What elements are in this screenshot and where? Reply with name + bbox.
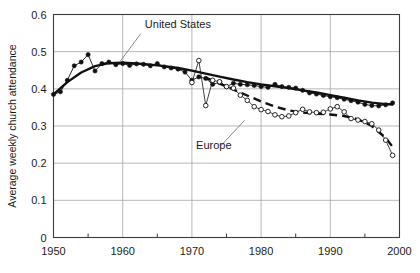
- data-point-europe: [245, 98, 250, 103]
- data-point-europe: [259, 107, 264, 112]
- data-point-united-states: [280, 85, 284, 89]
- data-point-united-states: [259, 85, 263, 89]
- data-point-europe: [370, 121, 375, 126]
- data-point-united-states: [307, 91, 311, 95]
- data-point-europe: [238, 93, 243, 98]
- x-tick-label: 1990: [318, 245, 342, 257]
- x-tick-label: 1980: [249, 245, 273, 257]
- x-tick-label: 1950: [41, 245, 65, 257]
- y-tick-label: 0.3: [31, 120, 46, 132]
- data-point-europe: [321, 110, 326, 115]
- data-point-united-states: [134, 62, 138, 66]
- data-point-united-states: [287, 85, 291, 89]
- y-tick-label: 0.1: [31, 194, 46, 206]
- data-point-united-states: [100, 61, 104, 65]
- data-point-united-states: [321, 93, 325, 97]
- data-point-united-states: [72, 64, 76, 68]
- y-tick-label: 0: [40, 232, 46, 244]
- data-point-united-states: [204, 76, 208, 80]
- data-point-united-states: [314, 92, 318, 96]
- data-point-europe: [314, 110, 319, 115]
- data-point-europe: [210, 78, 215, 83]
- data-point-united-states: [79, 60, 83, 64]
- data-point-europe: [293, 110, 298, 115]
- church-attendance-line-chart: 00.10.20.30.40.50.6 19501960197019801990…: [0, 0, 420, 273]
- data-point-united-states: [363, 102, 367, 106]
- data-point-europe: [342, 110, 347, 115]
- data-point-united-states: [155, 61, 159, 65]
- data-point-united-states: [86, 53, 90, 57]
- data-point-united-states: [370, 103, 374, 107]
- data-point-united-states: [342, 97, 346, 101]
- y-tick-label: 0.4: [31, 83, 46, 95]
- data-point-united-states: [349, 99, 353, 103]
- data-point-united-states: [384, 103, 388, 107]
- data-point-united-states: [51, 92, 55, 96]
- y-tick-label: 0.2: [31, 157, 46, 169]
- data-point-europe: [266, 109, 271, 114]
- data-point-united-states: [266, 85, 270, 89]
- y-tick-label: 0.6: [31, 9, 46, 21]
- data-point-united-states: [335, 96, 339, 100]
- data-point-united-states: [252, 83, 256, 87]
- series-annotation-europe: Europe: [196, 139, 231, 151]
- data-point-united-states: [114, 63, 118, 67]
- data-point-europe: [231, 86, 236, 91]
- data-point-europe: [335, 104, 340, 109]
- data-point-europe: [390, 153, 395, 158]
- data-point-europe: [363, 119, 368, 124]
- data-point-europe: [252, 104, 257, 109]
- data-point-united-states: [141, 62, 145, 66]
- chart-background: [0, 0, 420, 273]
- data-point-united-states: [273, 82, 277, 86]
- data-point-united-states: [197, 75, 201, 79]
- data-point-united-states: [128, 63, 132, 67]
- data-point-europe: [307, 110, 312, 115]
- data-point-united-states: [231, 81, 235, 85]
- data-point-united-states: [328, 95, 332, 99]
- data-point-united-states: [169, 66, 173, 70]
- data-point-united-states: [377, 104, 381, 108]
- x-tick-label: 1970: [180, 245, 204, 257]
- data-point-europe: [224, 84, 229, 89]
- chart-figure: 00.10.20.30.40.50.6 19501960197019801990…: [0, 0, 420, 273]
- data-point-united-states: [148, 64, 152, 68]
- data-point-united-states: [238, 82, 242, 86]
- data-point-united-states: [121, 61, 125, 65]
- series-annotation-united-states: United States: [145, 18, 212, 30]
- data-point-europe: [328, 107, 333, 112]
- data-point-united-states: [93, 69, 97, 73]
- data-point-united-states: [58, 90, 62, 94]
- data-point-united-states: [390, 101, 394, 105]
- data-point-europe: [190, 80, 195, 85]
- data-point-europe: [280, 114, 285, 119]
- data-point-europe: [376, 128, 381, 133]
- data-point-europe: [349, 116, 354, 121]
- data-point-europe: [356, 118, 361, 123]
- x-tick-label: 2000: [387, 245, 411, 257]
- data-point-united-states: [301, 88, 305, 92]
- data-point-europe: [197, 58, 202, 63]
- data-point-europe: [217, 79, 222, 84]
- data-point-united-states: [65, 78, 69, 82]
- data-point-united-states: [107, 60, 111, 64]
- data-point-united-states: [294, 86, 298, 90]
- data-point-europe: [203, 103, 208, 108]
- data-point-united-states: [183, 70, 187, 74]
- data-point-europe: [273, 113, 278, 118]
- x-tick-label: 1960: [110, 245, 134, 257]
- y-tick-label: 0.5: [31, 46, 46, 58]
- data-point-europe: [383, 138, 388, 143]
- data-point-europe: [300, 107, 305, 112]
- data-point-europe: [286, 114, 291, 119]
- y-axis-title: Average weekly church attendance: [6, 44, 18, 207]
- data-point-united-states: [162, 65, 166, 69]
- data-point-united-states: [356, 100, 360, 104]
- data-point-united-states: [245, 83, 249, 87]
- data-point-united-states: [176, 67, 180, 71]
